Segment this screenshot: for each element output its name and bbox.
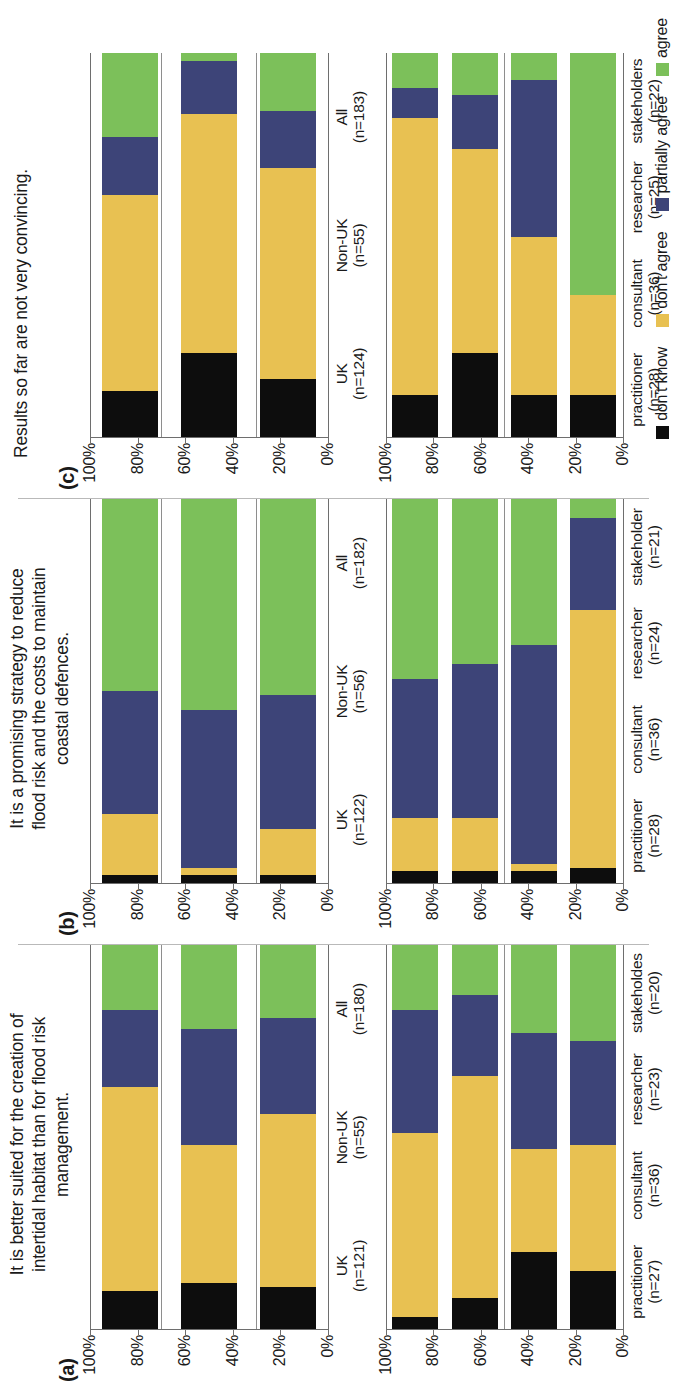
stacked-bar[interactable] xyxy=(452,499,498,883)
bar-segment[interactable] xyxy=(392,871,438,883)
bar-segment[interactable] xyxy=(392,1133,438,1317)
bar-segment[interactable] xyxy=(511,395,557,437)
bar-segment[interactable] xyxy=(452,945,498,995)
bar-segment[interactable] xyxy=(570,1145,616,1272)
bar-segment[interactable] xyxy=(102,53,158,137)
bar-segment[interactable] xyxy=(102,1010,158,1087)
legend-item[interactable]: don't know xyxy=(653,347,671,439)
bar-segment[interactable] xyxy=(511,1252,557,1329)
bar-segment[interactable] xyxy=(452,53,498,95)
bar-segment[interactable] xyxy=(392,1317,438,1329)
bar-segment[interactable] xyxy=(392,499,438,679)
bar-segment[interactable] xyxy=(570,610,616,867)
stacked-bar[interactable] xyxy=(181,499,237,883)
bar-segment[interactable] xyxy=(260,168,316,379)
bar-segment[interactable] xyxy=(392,945,438,1010)
stacked-bar[interactable] xyxy=(181,945,237,1329)
bar-segment[interactable] xyxy=(260,875,316,883)
bar-segment[interactable] xyxy=(570,295,616,395)
bar-segment[interactable] xyxy=(570,945,616,1041)
bar-segment[interactable] xyxy=(392,680,438,818)
bar-segment[interactable] xyxy=(452,1298,498,1329)
bar-segment[interactable] xyxy=(511,237,557,394)
bar-segment[interactable] xyxy=(102,814,158,875)
bar-segment[interactable] xyxy=(392,818,438,872)
bar-segment[interactable] xyxy=(181,868,237,876)
bar-segment[interactable] xyxy=(181,61,237,115)
stacked-bar[interactable] xyxy=(570,945,616,1329)
bar-segment[interactable] xyxy=(511,499,557,645)
bar-segment[interactable] xyxy=(511,645,557,864)
bar-segment[interactable] xyxy=(260,111,316,169)
bar-segment[interactable] xyxy=(102,1087,158,1291)
bar-segment[interactable] xyxy=(260,945,316,1018)
bar-segment[interactable] xyxy=(260,379,316,437)
bar-segment[interactable] xyxy=(102,499,158,691)
bar-segment[interactable] xyxy=(102,1291,158,1329)
bar-segment[interactable] xyxy=(260,1287,316,1329)
bar-segment[interactable] xyxy=(392,118,438,394)
bar-segment[interactable] xyxy=(181,1030,237,1145)
bar-segment[interactable] xyxy=(181,1283,237,1329)
stacked-bar[interactable] xyxy=(260,499,316,883)
bar-segment[interactable] xyxy=(452,995,498,1076)
stacked-bar[interactable] xyxy=(260,53,316,437)
bar-segment[interactable] xyxy=(452,149,498,353)
bar-segment[interactable] xyxy=(392,53,438,88)
bar-segment[interactable] xyxy=(260,1114,316,1287)
bar-segment[interactable] xyxy=(392,1010,438,1133)
bar-segment[interactable] xyxy=(452,499,498,664)
bar-segment[interactable] xyxy=(570,518,616,610)
bar-segment[interactable] xyxy=(181,875,237,883)
bar-segment[interactable] xyxy=(181,353,237,437)
bar-segment[interactable] xyxy=(102,691,158,814)
bar-segment[interactable] xyxy=(181,1145,237,1283)
bar-segment[interactable] xyxy=(511,1149,557,1253)
stacked-bar[interactable] xyxy=(511,499,557,883)
legend-item[interactable]: agree xyxy=(653,18,671,76)
stacked-bar[interactable] xyxy=(392,945,438,1329)
stacked-bar[interactable] xyxy=(102,499,158,883)
legend-item[interactable]: don't agree xyxy=(653,231,671,326)
stacked-bar[interactable] xyxy=(260,945,316,1329)
stacked-bar[interactable] xyxy=(570,53,616,437)
bar-segment[interactable] xyxy=(181,114,237,352)
bar-segment[interactable] xyxy=(570,1271,616,1329)
bar-segment[interactable] xyxy=(570,868,616,883)
bar-segment[interactable] xyxy=(452,353,498,437)
bar-segment[interactable] xyxy=(511,1033,557,1148)
bar-segment[interactable] xyxy=(260,53,316,111)
bar-segment[interactable] xyxy=(181,945,237,1029)
stacked-bar[interactable] xyxy=(452,53,498,437)
bar-segment[interactable] xyxy=(452,1076,498,1299)
bar-segment[interactable] xyxy=(452,871,498,883)
bar-segment[interactable] xyxy=(102,195,158,391)
stacked-bar[interactable] xyxy=(392,53,438,437)
bar-segment[interactable] xyxy=(392,88,438,119)
bar-segment[interactable] xyxy=(570,395,616,437)
bar-segment[interactable] xyxy=(260,695,316,829)
bar-segment[interactable] xyxy=(511,864,557,872)
bar-segment[interactable] xyxy=(392,395,438,437)
bar-segment[interactable] xyxy=(452,95,498,149)
stacked-bar[interactable] xyxy=(181,53,237,437)
bar-segment[interactable] xyxy=(570,1041,616,1145)
bar-segment[interactable] xyxy=(260,499,316,695)
stacked-bar[interactable] xyxy=(452,945,498,1329)
stacked-bar[interactable] xyxy=(511,945,557,1329)
bar-segment[interactable] xyxy=(511,53,557,80)
bar-segment[interactable] xyxy=(102,945,158,1010)
bar-segment[interactable] xyxy=(452,664,498,818)
stacked-bar[interactable] xyxy=(392,499,438,883)
bar-segment[interactable] xyxy=(102,875,158,883)
stacked-bar[interactable] xyxy=(102,53,158,437)
bar-segment[interactable] xyxy=(260,1018,316,1114)
legend-item[interactable]: partially agree xyxy=(653,96,671,212)
stacked-bar[interactable] xyxy=(570,499,616,883)
bar-segment[interactable] xyxy=(102,391,158,437)
bar-segment[interactable] xyxy=(260,829,316,875)
bar-segment[interactable] xyxy=(181,53,237,61)
bar-segment[interactable] xyxy=(570,499,616,518)
bar-segment[interactable] xyxy=(452,818,498,872)
bar-segment[interactable] xyxy=(511,945,557,1033)
